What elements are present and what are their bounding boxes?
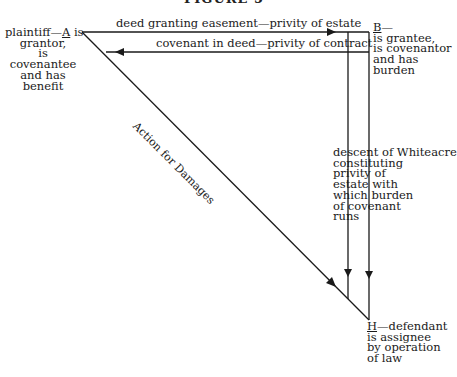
action-line xyxy=(82,32,369,320)
party-a-is: is xyxy=(70,25,83,39)
descent-inner-arrow-icon xyxy=(344,269,352,277)
party-h-line: of law xyxy=(367,353,447,364)
party-h-label: H—defendant is assignee by operation of … xyxy=(367,321,447,364)
descent-line: runs xyxy=(333,211,457,222)
covenant-label: covenant in deed—privity of contract xyxy=(156,38,372,49)
descent-outer-arrow-icon xyxy=(365,271,373,279)
party-a-label: plaintiff—A is grantor, is covenantee an… xyxy=(5,27,81,91)
covenant-arrow-icon xyxy=(115,48,124,56)
descent-label: descent of Whiteacre constituting privit… xyxy=(333,147,457,222)
party-b-label: B— is grantee, is covenantor and has bur… xyxy=(373,22,452,76)
deed-label: deed granting easement—privity of estate xyxy=(116,18,361,29)
party-a-line: benefit xyxy=(5,81,81,92)
party-b-line: burden xyxy=(373,65,452,76)
